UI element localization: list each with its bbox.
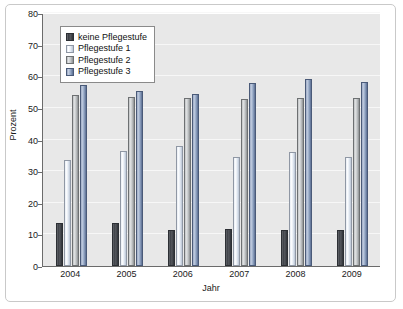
gridline (43, 170, 380, 171)
gridline (43, 139, 380, 140)
legend-item-1: Pflegestufe 1 (66, 43, 147, 54)
y-axis-tick-label: 0 (16, 263, 38, 272)
y-axis-tick-mark (38, 109, 42, 110)
y-axis-tick-mark (38, 14, 42, 15)
x-axis-label: Jahr (42, 283, 380, 293)
bar-2006-series-3 (192, 94, 199, 266)
bar-2005-series-2 (128, 97, 135, 266)
y-axis-tick-mark (38, 204, 42, 205)
gridline (43, 12, 380, 13)
bar-2007-series-0 (225, 229, 232, 266)
bar-2007-series-2 (241, 99, 248, 266)
x-axis-tick-label: 2005 (99, 270, 155, 279)
bar-group-2007 (225, 14, 256, 266)
bar-2005-series-3 (136, 91, 143, 266)
y-axis-tick-label: 60 (16, 73, 38, 82)
y-axis-tick-mark (38, 77, 42, 78)
chart-figure: Prozent 01020304050607080 20042005200620… (0, 0, 403, 309)
bar-2005-series-0 (112, 223, 119, 266)
bar-group-2008 (281, 14, 312, 266)
legend-item-0: keine Pflegestufe (66, 32, 147, 43)
y-axis-tick-label: 10 (16, 231, 38, 240)
bar-2008-series-3 (305, 79, 312, 266)
legend-item-label: keine Pflegestufe (78, 33, 147, 42)
legend-swatch-icon (66, 33, 74, 41)
legend-swatch-icon (66, 45, 74, 53)
bar-2009-series-1 (345, 157, 352, 266)
legend-item-label: Pflegestufe 2 (78, 56, 131, 65)
bar-2007-series-1 (233, 157, 240, 266)
bar-2006-series-1 (176, 146, 183, 266)
legend-item-3: Pflegestufe 3 (66, 66, 147, 77)
bar-2009-series-3 (361, 82, 368, 266)
x-axis-tick-label: 2009 (324, 270, 380, 279)
x-axis-tick-label: 2006 (155, 270, 211, 279)
bar-2004-series-1 (64, 160, 71, 266)
legend-item-2: Pflegestufe 2 (66, 55, 147, 66)
y-axis-tick-mark (38, 46, 42, 47)
y-axis-tick-label: 40 (16, 136, 38, 145)
x-axis-tick-label: 2008 (268, 270, 324, 279)
bar-2008-series-2 (297, 98, 304, 266)
bar-2006-series-0 (168, 230, 175, 266)
bar-2005-series-1 (120, 151, 127, 266)
x-axis-tick-label: 2007 (211, 270, 267, 279)
y-axis-tick-label: 50 (16, 104, 38, 113)
bar-2006-series-2 (184, 98, 191, 266)
y-axis-tick-mark (38, 235, 42, 236)
y-axis-tick-mark (38, 141, 42, 142)
y-axis-tick-label: 30 (16, 168, 38, 177)
legend-swatch-icon (66, 68, 74, 76)
bar-2007-series-3 (249, 83, 256, 266)
legend-swatch-icon (66, 56, 74, 64)
bar-2009-series-0 (337, 230, 344, 266)
gridline (43, 233, 380, 234)
gridline (43, 202, 380, 203)
y-axis-tick-mark (38, 172, 42, 173)
x-axis-tick-label: 2004 (42, 270, 98, 279)
x-axis-tick-labels: 200420052006200720082009 (42, 270, 380, 284)
bar-2004-series-0 (56, 223, 63, 266)
bar-2008-series-1 (289, 152, 296, 266)
bar-2004-series-2 (72, 95, 79, 266)
chart-legend: keine PflegestufePflegestufe 1Pflegestuf… (60, 26, 155, 83)
bar-2009-series-2 (353, 98, 360, 266)
y-axis-tick-label: 80 (16, 10, 38, 19)
y-axis-tick-labels: 01020304050607080 (12, 14, 38, 267)
bar-2004-series-3 (80, 85, 87, 266)
bar-group-2006 (168, 14, 199, 266)
y-axis-tick-label: 20 (16, 199, 38, 208)
bar-2008-series-0 (281, 230, 288, 266)
y-axis-tick-label: 70 (16, 41, 38, 50)
legend-item-label: Pflegestufe 3 (78, 67, 131, 76)
legend-item-label: Pflegestufe 1 (78, 44, 131, 53)
gridline (43, 107, 380, 108)
y-axis-tick-mark (38, 267, 42, 268)
bar-group-2009 (337, 14, 368, 266)
